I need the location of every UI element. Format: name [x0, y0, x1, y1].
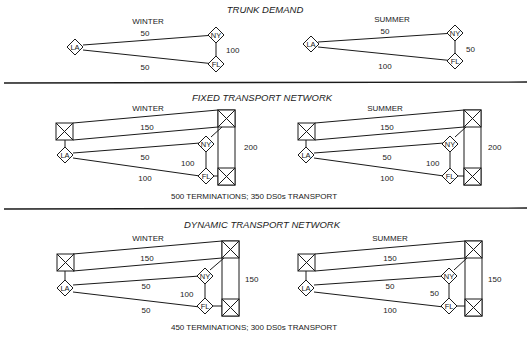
- label-la-ny: 50: [142, 282, 151, 291]
- node-fl: FL: [198, 168, 214, 184]
- svg-text:LA: LA: [301, 151, 310, 160]
- switch-ny: [465, 241, 482, 258]
- label-la-fl: 100: [380, 174, 394, 183]
- link-la-ny: [73, 276, 200, 285]
- season-label: SUMMER: [374, 15, 410, 24]
- section-title: FIXED TRANSPORT NETWORK: [192, 92, 333, 103]
- link-la-fl: [83, 50, 215, 64]
- label-la-ny: 50: [386, 282, 395, 291]
- summary-text: 450 TERMINATIONS; 300 DS0s TRANSPORT: [171, 323, 337, 332]
- link-la-ny: [314, 143, 444, 153]
- label-la-ny: 50: [381, 27, 390, 36]
- node-ny: NY: [197, 268, 213, 284]
- link-la-ny: [314, 276, 444, 285]
- node-ny: NY: [447, 25, 463, 41]
- svg-text:LA: LA: [301, 284, 310, 293]
- label-ny-fl: 100: [426, 159, 440, 168]
- switch-la: [298, 123, 315, 140]
- section-title: TRUNK DEMAND: [227, 4, 304, 15]
- label-ny-fl: 100: [226, 46, 240, 55]
- label-la-fl: 50: [141, 63, 150, 72]
- link-la-fl: [318, 47, 455, 61]
- switch-fl: [465, 299, 482, 316]
- svg-text:FL: FL: [451, 57, 460, 66]
- label-la-ny: 50: [141, 29, 150, 38]
- label-la-fl: 100: [383, 306, 397, 315]
- season-label: SUMMER: [367, 104, 403, 113]
- summary-text: 500 TERMINATIONS; 350 DS0s TRANSPORT: [171, 192, 337, 201]
- link-la-fl: [314, 292, 444, 307]
- label-transport: 150: [380, 123, 394, 132]
- svg-text:NY: NY: [200, 272, 210, 281]
- svg-text:NY: NY: [211, 31, 221, 40]
- node-fl: FL: [441, 298, 457, 314]
- link-la-ny: [73, 143, 200, 153]
- node-ny: NY: [208, 27, 224, 43]
- svg-text:LA: LA: [60, 151, 69, 160]
- label-transport: 150: [140, 254, 154, 263]
- node-la: LA: [303, 36, 319, 52]
- label-ny-fl: 100: [180, 290, 194, 299]
- link-la-fl: [314, 158, 444, 176]
- switch-ny: [218, 110, 235, 127]
- node-la: LA: [298, 147, 314, 163]
- label-ny-fl: 50: [466, 45, 475, 54]
- switch-fl: [464, 168, 481, 185]
- label-la-fl: 100: [138, 174, 152, 183]
- switch-fl: [218, 168, 235, 185]
- network-diagram: TRUNK DEMAND WINTER LA NY FL 50 50 100 S…: [0, 0, 531, 341]
- label-vertical: 200: [244, 143, 258, 152]
- label-transport: 150: [140, 123, 154, 132]
- svg-text:FL: FL: [212, 60, 221, 69]
- node-la: LA: [57, 147, 73, 163]
- label-ny-fl: 100: [181, 159, 195, 168]
- label-transport: 150: [383, 254, 397, 263]
- node-ny: NY: [441, 268, 457, 284]
- dynamic-transport-section: DYNAMIC TRANSPORT NETWORK WINTER LA NY F…: [57, 219, 502, 332]
- svg-text:NY: NY: [450, 29, 460, 38]
- node-fl: FL: [442, 168, 458, 184]
- section-title: DYNAMIC TRANSPORT NETWORK: [184, 219, 341, 230]
- node-la: LA: [298, 280, 314, 296]
- section-divider: [4, 208, 527, 209]
- switch-la: [298, 254, 315, 271]
- node-ny: NY: [198, 136, 214, 152]
- svg-text:LA: LA: [306, 40, 315, 49]
- svg-text:LA: LA: [70, 43, 79, 52]
- switch-ny: [222, 241, 239, 258]
- trunk-summer-panel: SUMMER LA NY FL 50 100 50: [303, 15, 475, 71]
- node-fl: FL: [208, 56, 224, 72]
- svg-text:FL: FL: [445, 302, 454, 311]
- dynamic-winter-panel: WINTER LA NY FL 150 50 50 100 150: [57, 234, 259, 316]
- label-vertical: 150: [245, 275, 259, 284]
- fixed-summer-panel: SUMMER LA NY FL 150 50 100 100 200: [298, 104, 502, 185]
- label-la-fl: 100: [378, 62, 392, 71]
- fixed-transport-section: FIXED TRANSPORT NETWORK WINTER LA NY FL …: [56, 92, 502, 201]
- node-la: LA: [67, 39, 83, 55]
- switch-fl: [222, 299, 239, 316]
- switch-la: [57, 254, 74, 271]
- label-vertical: 150: [488, 275, 502, 284]
- svg-text:FL: FL: [201, 302, 210, 311]
- season-label: WINTER: [132, 17, 164, 26]
- svg-text:NY: NY: [201, 140, 211, 149]
- trunk-demand-section: TRUNK DEMAND WINTER LA NY FL 50 50 100 S…: [67, 4, 475, 72]
- dynamic-summer-panel: SUMMER LA NY FL 150 50 100 50 150: [298, 234, 502, 316]
- switch-ny: [464, 110, 481, 127]
- switch-la: [56, 123, 73, 140]
- trunk-winter-panel: WINTER LA NY FL 50 50 100: [67, 17, 240, 72]
- label-la-ny: 50: [141, 153, 150, 162]
- label-vertical: 200: [488, 143, 502, 152]
- season-label: WINTER: [132, 104, 164, 113]
- svg-text:FL: FL: [446, 172, 455, 181]
- fixed-winter-panel: WINTER LA NY FL 150 50 100 100 200: [56, 104, 258, 185]
- section-divider: [4, 82, 527, 83]
- label-la-ny: 50: [383, 153, 392, 162]
- node-ny: NY: [442, 136, 458, 152]
- label-ny-fl: 50: [430, 289, 439, 298]
- svg-text:FL: FL: [202, 172, 211, 181]
- season-label: WINTER: [132, 234, 164, 243]
- season-label: SUMMER: [372, 234, 408, 243]
- svg-text:NY: NY: [444, 272, 454, 281]
- node-la: LA: [57, 280, 73, 296]
